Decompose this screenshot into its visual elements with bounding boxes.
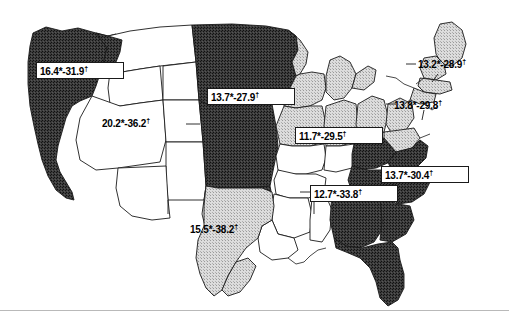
label-marker-mid-atlantic: † xyxy=(438,99,442,106)
label-marker-new-england: † xyxy=(462,58,466,65)
label-value-new-england: 13.2*-28.9 xyxy=(418,59,462,70)
map-label-south-texas: 15.5*-38.2† xyxy=(188,222,274,238)
label-value-southeast: 13.7*-30.4 xyxy=(385,170,429,181)
label-value-mountain-west: 20.2*-36.2 xyxy=(102,118,146,129)
map-label-mid-atlantic: 13.8*-29.8† xyxy=(392,98,478,114)
label-marker-great-lakes: † xyxy=(343,130,347,137)
label-marker-northern-plains: † xyxy=(255,91,259,98)
map-label-mountain-west: 20.2*-36.2† xyxy=(100,116,186,132)
bottom-rule xyxy=(0,310,509,311)
map-label-pacific-northwest: 16.4*-31.9† xyxy=(36,62,124,79)
us-map-graphic xyxy=(0,0,509,318)
label-marker-mountain-west: † xyxy=(146,117,150,124)
label-value-northern-plains: 13.7*-27.9 xyxy=(211,92,255,103)
map-label-new-england: 13.2*-28.9† xyxy=(416,57,502,73)
map-label-great-lakes: 11.7*-29.5† xyxy=(295,127,383,144)
label-value-south-central: 12.7*-33.8 xyxy=(314,189,358,200)
map-label-northern-plains: 13.7*-27.9† xyxy=(207,88,295,105)
us-choropleth-map-figure: 16.4*-31.9† 20.2*-36.2† 13.7*-27.9† 11.7… xyxy=(0,0,509,318)
label-marker-southeast: † xyxy=(429,169,433,176)
label-value-pacific-northwest: 16.4*-31.9 xyxy=(40,66,84,77)
label-value-mid-atlantic: 13.8*-29.8 xyxy=(394,100,438,111)
map-label-southeast: 13.7*-30.4† xyxy=(381,166,469,183)
label-marker-south-central: † xyxy=(358,188,362,195)
label-marker-pacific-northwest: † xyxy=(84,65,88,72)
map-label-south-central: 12.7*-33.8† xyxy=(310,185,398,202)
label-value-south-texas: 15.5*-38.2 xyxy=(190,224,234,235)
label-value-great-lakes: 11.7*-29.5 xyxy=(299,131,343,142)
label-marker-south-texas: † xyxy=(234,223,238,230)
